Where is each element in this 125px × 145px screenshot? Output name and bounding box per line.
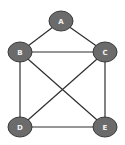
node-d: D xyxy=(8,117,32,137)
graph-diagram: ABCDE xyxy=(0,0,125,145)
nodes-group: ABCDE xyxy=(8,11,117,137)
node-e: E xyxy=(93,117,117,137)
edges-group xyxy=(20,21,105,127)
node-c: C xyxy=(93,42,117,62)
node-label: D xyxy=(17,124,23,132)
node-label: E xyxy=(103,124,108,132)
node-a: A xyxy=(49,11,73,31)
node-label: A xyxy=(58,18,64,26)
node-b: B xyxy=(8,42,32,62)
node-label: C xyxy=(102,49,107,57)
node-label: B xyxy=(17,49,22,57)
